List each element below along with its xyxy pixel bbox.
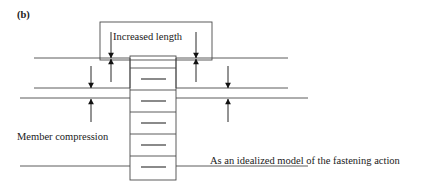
figure-panel-b: (b) Increased length Member compression … xyxy=(0,0,422,190)
fastener-shank-column xyxy=(130,56,176,180)
idealized-model-caption: As an idealized model of the fastening a… xyxy=(210,130,400,190)
panel-label: (b) xyxy=(17,9,30,21)
idealized-model-caption-line-1: As an idealized model of the fastening a… xyxy=(210,155,400,167)
member-compression-label: Member compression xyxy=(17,131,108,143)
increased-length-label: Increased length xyxy=(113,31,182,43)
